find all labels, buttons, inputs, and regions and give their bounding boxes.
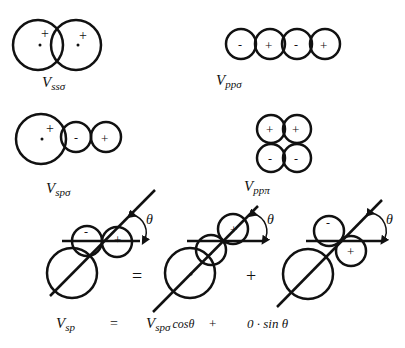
minus-sign: - xyxy=(326,216,330,230)
plus-sign: + xyxy=(101,131,108,146)
equation-plus: + xyxy=(209,316,216,331)
minus-sign: - xyxy=(294,152,298,166)
minus-sign: - xyxy=(294,38,298,52)
vss-sigma-figure xyxy=(13,20,101,70)
equation-lhs: Vsp xyxy=(56,315,75,333)
theta-label: θ xyxy=(386,212,393,227)
vss-sigma-label: Vssσ xyxy=(42,74,66,92)
equation-row: Vsp = Vspσcosθ + 0 · sin θ xyxy=(56,315,289,333)
plus-sign: + xyxy=(230,222,237,237)
theta-label: θ xyxy=(146,212,153,227)
plus-sign: + xyxy=(320,38,327,53)
plus-sign: + xyxy=(41,26,49,41)
minus-sign: - xyxy=(268,152,272,166)
minus-sign: - xyxy=(238,38,242,52)
plus-sign: + xyxy=(292,122,299,137)
theta-label: θ xyxy=(267,212,274,227)
minus-sign: - xyxy=(84,225,88,239)
plus-sign: + xyxy=(79,28,87,43)
pi-projection-figure xyxy=(277,200,384,307)
plus-sign: + xyxy=(114,232,121,247)
equals-operator: = xyxy=(132,266,142,286)
vpp-sigma-label: Vppσ xyxy=(216,72,242,90)
equation-equals: = xyxy=(110,316,118,331)
minus-sign: - xyxy=(74,131,78,145)
orbital-overlap-diagram: + + Vssσ - + - + Vppσ + - + Vspσ + + - -… xyxy=(0,0,405,348)
equation-term1: Vspσcosθ xyxy=(146,315,194,333)
plus-operator: + xyxy=(246,266,256,286)
plus-sign: + xyxy=(46,121,54,136)
vsp-sigma-label: Vspσ xyxy=(46,180,71,198)
vpp-pi-label: Vppπ xyxy=(244,178,270,196)
plus-sign: + xyxy=(266,122,273,137)
plus-sign: + xyxy=(347,244,354,259)
plus-sign: + xyxy=(265,38,272,53)
minus-sign: - xyxy=(208,247,212,261)
equation-term2: 0 · sin θ xyxy=(247,316,289,331)
